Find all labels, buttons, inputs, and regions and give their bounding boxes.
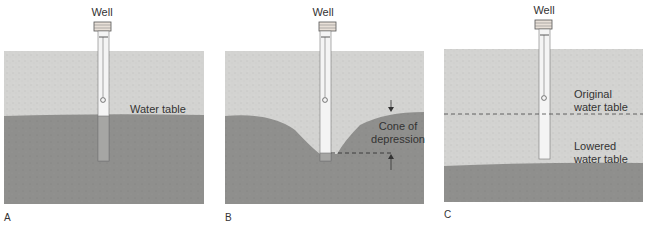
- panel-letter-b: B: [225, 212, 232, 223]
- original-label-line2: water table: [573, 101, 628, 113]
- original-label-line1: Original: [574, 88, 612, 100]
- saturated-zone: [444, 163, 643, 202]
- well-label: Well: [312, 6, 333, 18]
- lowered-label-line1: Lowered: [574, 140, 616, 152]
- well-label: Well: [533, 4, 554, 16]
- well-cap-icon: [319, 22, 336, 31]
- water-table-label: Water table: [130, 103, 186, 115]
- well-pipe: [539, 29, 550, 159]
- cone-label-line2: depression: [371, 133, 425, 145]
- panel-letter-a: A: [4, 212, 11, 223]
- well-pipe: [320, 31, 331, 161]
- panel-b: Cone of depression Well B: [225, 6, 425, 223]
- well-cap-icon: [94, 22, 111, 31]
- groundwater-diagram: Well Water table A Cone of depression We…: [0, 0, 647, 226]
- panel-letter-c: C: [444, 209, 451, 220]
- panel-a: Well Water table A: [4, 6, 204, 223]
- lowered-label-line2: water table: [573, 153, 628, 165]
- well-label: Well: [91, 6, 112, 18]
- cone-label-line1: Cone of: [379, 120, 418, 132]
- well-cap-icon: [535, 20, 552, 29]
- panel-c: Original water table Lowered water table…: [444, 4, 643, 220]
